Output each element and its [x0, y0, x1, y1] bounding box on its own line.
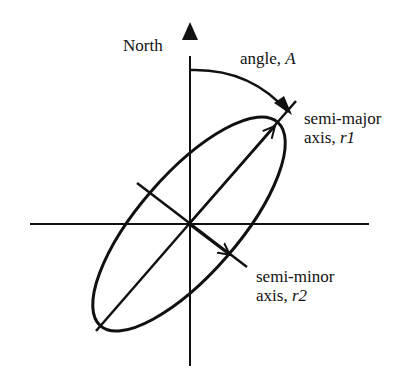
- angle-label: angle, A: [240, 49, 296, 68]
- semi-major-label: semi-major axis, r1: [304, 109, 381, 147]
- angle-arc: [190, 70, 288, 112]
- north-arrowhead-icon: [182, 22, 198, 40]
- semi-minor-label: semi-minor axis, r2: [256, 267, 334, 305]
- ellipse-diagram: [0, 0, 413, 378]
- semi-minor-arrow: [189, 224, 230, 255]
- north-label: North: [123, 36, 163, 55]
